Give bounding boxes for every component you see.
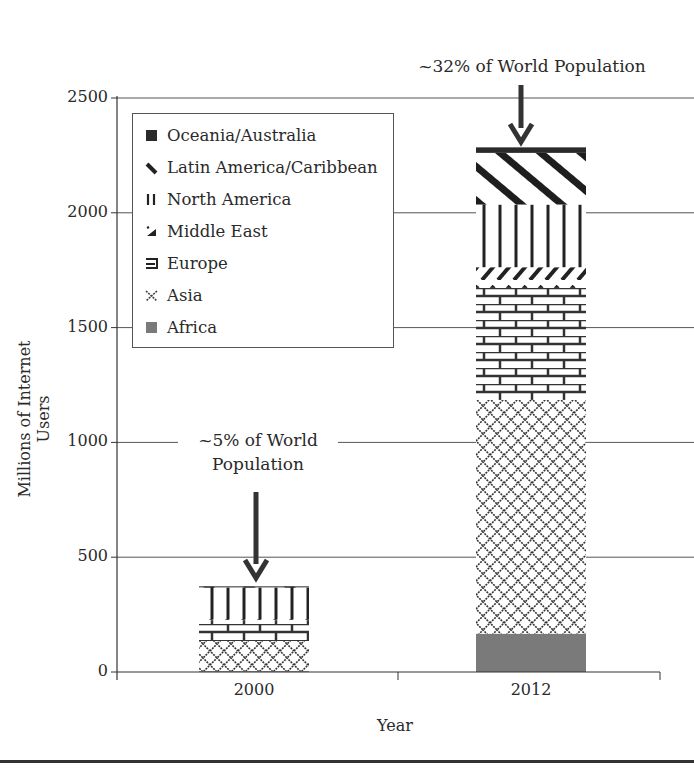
legend-label: Asia <box>167 286 203 305</box>
bar-segment-middle-east <box>199 619 309 620</box>
bar-segment-asia <box>476 400 586 634</box>
legend-swatch-icon <box>145 288 159 303</box>
bar-segment-europe <box>199 620 309 641</box>
legend-swatch-icon <box>145 320 159 335</box>
bar-segment-europe <box>476 288 586 400</box>
bar-segment-asia <box>199 641 309 671</box>
legend-swatch-icon <box>145 256 159 271</box>
legend-label: Oceania/Australia <box>167 126 316 145</box>
legend-item-latin-america-caribbean: Latin America/Caribbean <box>145 155 378 179</box>
y-tick-label: 1000 <box>30 431 108 450</box>
legend-item-north-america: North America <box>145 187 291 211</box>
legend-label: Africa <box>167 318 217 337</box>
x-tick-label: 2000 <box>214 680 294 699</box>
legend-label: Europe <box>167 254 228 273</box>
chart-container: ~32% of World Population ~5% of World Po… <box>0 0 694 774</box>
legend-swatch-icon <box>145 128 159 143</box>
page-divider <box>0 760 694 763</box>
legend-item-middle-east: Middle East <box>145 219 268 243</box>
legend-label: Middle East <box>167 222 268 241</box>
y-axis-label: Millions of Internet Users <box>15 319 53 519</box>
legend-item-europe: Europe <box>145 251 228 275</box>
legend-swatch-icon <box>145 192 159 207</box>
legend: Oceania/AustraliaLatin America/Caribbean… <box>132 113 394 348</box>
annotation-2000: ~5% of World Population <box>178 428 338 476</box>
legend-item-africa: Africa <box>145 315 217 339</box>
legend-label: Latin America/Caribbean <box>167 158 378 177</box>
y-tick-label: 0 <box>30 661 108 680</box>
y-tick-label: 2500 <box>30 87 108 106</box>
legend-swatch-icon <box>145 160 159 175</box>
x-axis-label: Year <box>360 716 430 735</box>
bar-segment-north-america <box>476 205 586 268</box>
bar-segment-oceania-australia <box>199 586 309 587</box>
bar-segment-middle-east <box>476 267 586 288</box>
legend-item-asia: Asia <box>145 283 203 307</box>
y-tick-label: 2000 <box>30 202 108 221</box>
legend-label: North America <box>167 190 291 209</box>
y-tick-label: 1500 <box>30 317 108 336</box>
bar-segment-north-america <box>199 587 309 619</box>
legend-item-oceania-australia: Oceania/Australia <box>145 123 316 147</box>
bar-segment-oceania-australia <box>476 147 586 153</box>
x-tick-label: 2012 <box>491 680 571 699</box>
bar-segment-africa <box>476 634 586 672</box>
annotation-2012: ~32% of World Population <box>412 54 652 78</box>
bar-segment-latin-america-caribbean <box>476 153 586 205</box>
legend-swatch-icon <box>145 224 159 239</box>
annotation-2000-line2: Population <box>178 452 338 476</box>
annotation-2000-line1: ~5% of World <box>178 428 338 452</box>
y-tick-label: 500 <box>30 546 108 565</box>
